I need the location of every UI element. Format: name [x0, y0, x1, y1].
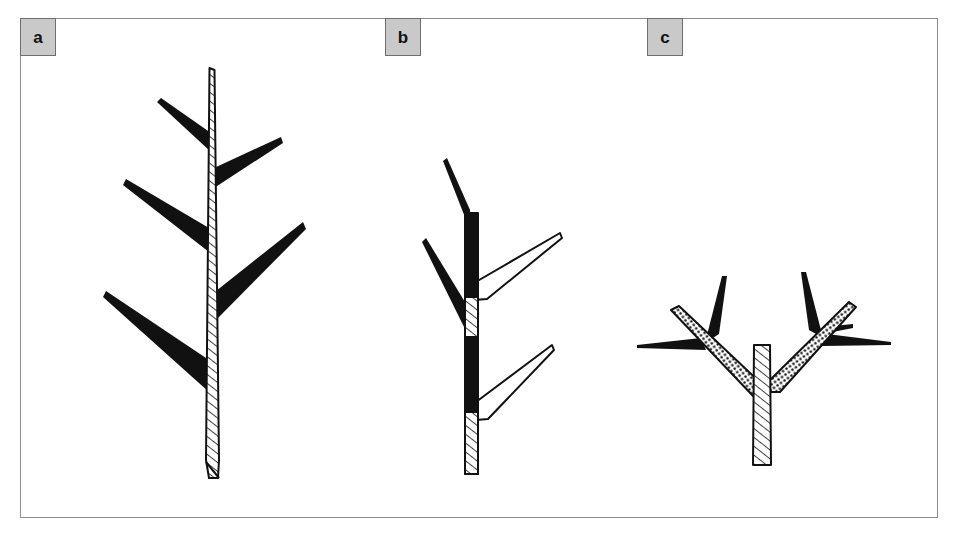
- branch-outline: [476, 345, 554, 420]
- main-stem: [753, 345, 771, 465]
- branch-wedge: [214, 137, 283, 188]
- figure-root: a b c: [0, 0, 960, 534]
- figure-drawing: [0, 0, 960, 534]
- panel-label-c-text: c: [660, 29, 669, 46]
- branch-wedge: [103, 291, 209, 392]
- panel-label-b: b: [385, 18, 421, 56]
- stem-segment-hatched: [465, 297, 478, 337]
- branch-outline: [474, 233, 562, 300]
- needle-branch: [801, 272, 823, 338]
- needle-branch: [637, 338, 706, 350]
- panel-a-drawing: [103, 68, 306, 478]
- panel-label-a: a: [20, 18, 56, 56]
- stem-segment-black: [465, 337, 478, 412]
- branch-wedge: [422, 238, 468, 335]
- panel-label-c: c: [647, 18, 683, 56]
- panel-b-drawing: [422, 158, 562, 474]
- branch-wedge: [123, 179, 209, 252]
- branch-wedge: [216, 222, 306, 320]
- main-stem: [206, 68, 219, 478]
- panel-c-drawing: [637, 272, 891, 465]
- panel-a-branches: [103, 98, 306, 392]
- panel-label-b-text: b: [398, 29, 408, 46]
- branch-wedge: [157, 98, 211, 152]
- needle-branch: [822, 334, 891, 346]
- stem-segment-hatched: [465, 412, 478, 474]
- panel-label-a-text: a: [33, 29, 42, 46]
- stem-segment-black: [465, 213, 478, 297]
